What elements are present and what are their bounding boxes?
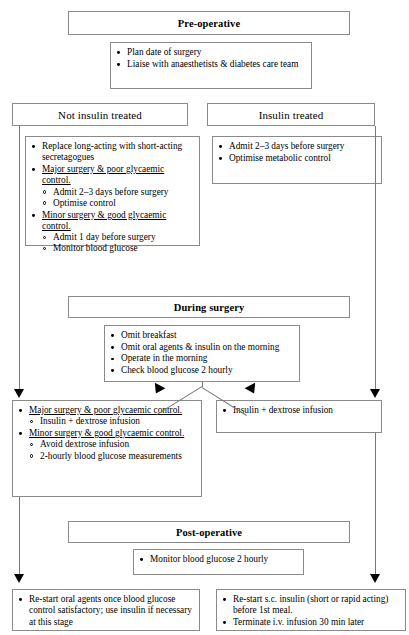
sub-list-item-text: Avoid dextrose infusion [40, 439, 129, 449]
bullet-dot-icon [223, 621, 226, 624]
list-item: Minor surgery & good glycaemic control. … [17, 428, 197, 462]
list-item-text: Admit 2–3 days before surgery [229, 141, 345, 151]
list-item-text: Check blood glucose 2 hourly [121, 365, 233, 375]
bullet-dot-icon [223, 598, 226, 601]
sub-list-item: Admit 2–3 days before surgery [42, 187, 195, 198]
list-item-text: Plan date of surgery [127, 47, 201, 57]
list-item: Optimise metabolic control [217, 153, 377, 164]
bullet-dot-icon [32, 168, 35, 171]
bullet-dot-icon [32, 214, 35, 217]
connector-right-branch-vertical [375, 126, 376, 392]
list-item-text: Replace long-acting with short-acting se… [42, 141, 182, 162]
stage-banner-during-surgery-label: During surgery [174, 302, 245, 313]
list-item: Omit oral agents & insulin on the mornin… [109, 342, 295, 353]
connector-left-branch-arrowhead [14, 389, 24, 398]
bullet-circle-icon [43, 190, 46, 193]
list-item-text: Terminate i.v. infusion 30 min later [233, 617, 364, 627]
branch-header-insulin-treated: Insulin treated [207, 103, 375, 126]
sub-list-item-text: 2-hourly blood glucose measurements [40, 451, 182, 461]
list-item: Minor surgery & good glycaemic control. … [30, 210, 195, 255]
list-item: Omit breakfast [109, 330, 295, 341]
sub-list-item: Optimise control [42, 198, 195, 209]
connector-postop-right-arrowhead [370, 574, 380, 583]
list-item-text: Major surgery & poor glycaemic control. [42, 164, 164, 185]
during-surgery-actions-box: Omit breakfast Omit oral agents & insuli… [104, 325, 300, 382]
sub-list: Admit 1 day before surgery Monitor blood… [42, 232, 195, 255]
connector-postop-left-vertical [19, 497, 20, 577]
list-item-text: Re-start oral agents once blood glucose … [29, 594, 192, 627]
sub-list: Admit 2–3 days before surgery Optimise c… [42, 187, 195, 210]
sub-list-item-text: Optimise control [53, 198, 116, 208]
postoperative-right-list: Re-start s.c. insulin (short or rapid ac… [221, 594, 401, 628]
list-item-text: Liaise with anaesthetists & diabetes car… [127, 59, 298, 69]
list-item-text: Monitor blood glucose 2 hourly [150, 554, 268, 564]
bullet-circle-icon [43, 247, 46, 250]
sub-list-item-text: Admit 2–3 days before surgery [53, 187, 169, 197]
postoperative-left-box: Re-start oral agents once blood glucose … [12, 589, 200, 631]
list-item-text: Insulin + dextrose infusion [233, 405, 333, 415]
list-item: Terminate i.v. infusion 30 min later [221, 617, 401, 628]
bullet-dot-icon [19, 409, 22, 412]
bullet-dot-icon [219, 157, 222, 160]
bullet-dot-icon [111, 369, 114, 372]
list-item-text: Operate in the morning [121, 353, 208, 363]
insulin-treated-content-box: Admit 2–3 days before surgery Optimise m… [212, 136, 382, 184]
sub-list: Avoid dextrose infusion 2-hourly blood g… [29, 439, 197, 462]
bullet-dot-icon [117, 51, 120, 54]
connector-during-surgery-arrowhead-left [151, 383, 166, 397]
list-item: Major surgery & poor glycaemic control. … [30, 164, 195, 209]
stage-banner-postoperative-label: Post-operative [176, 527, 242, 538]
branch-header-not-insulin-treated-label: Not insulin treated [58, 109, 142, 121]
postoperative-right-box: Re-start s.c. insulin (short or rapid ac… [216, 589, 406, 631]
during-surgery-list: Omit breakfast Omit oral agents & insuli… [109, 330, 295, 376]
connector-during-surgery-arrowhead-right [245, 383, 260, 397]
list-item: Monitor blood glucose 2 hourly [138, 554, 299, 565]
flowchart-canvas: Pre-operative Plan date of surgery Liais… [0, 0, 409, 635]
list-item-text: Omit breakfast [121, 330, 177, 340]
bullet-dot-icon [19, 598, 22, 601]
stage-banner-preoperative-label: Pre-operative [178, 18, 240, 29]
list-item: Re-start oral agents once blood glucose … [17, 594, 195, 628]
bullet-dot-icon [19, 432, 22, 435]
list-item-text: Re-start s.c. insulin (short or rapid ac… [233, 594, 388, 615]
postoperative-left-list: Re-start oral agents once blood glucose … [17, 594, 195, 628]
bullet-dot-icon [111, 334, 114, 337]
sub-list-item: 2-hourly blood glucose measurements [29, 451, 197, 462]
sub-list-item: Monitor blood glucose [42, 243, 195, 254]
sub-list-item-text: Insulin + dextrose infusion [40, 416, 140, 426]
insulin-treated-list: Admit 2–3 days before surgery Optimise m… [217, 141, 377, 164]
not-insulin-treated-content-box: Replace long-acting with short-acting se… [25, 136, 200, 246]
intraoperative-left-list: Major surgery & poor glycaemic control. … [17, 405, 197, 462]
bullet-circle-icon [43, 236, 46, 239]
list-item: Replace long-acting with short-acting se… [30, 141, 195, 164]
bullet-dot-icon [111, 358, 114, 361]
list-item-text: Optimise metabolic control [229, 153, 331, 163]
bullet-circle-icon [30, 454, 33, 457]
list-item: Re-start s.c. insulin (short or rapid ac… [221, 594, 401, 617]
stage-banner-postoperative: Post-operative [68, 521, 350, 543]
list-item: Admit 2–3 days before surgery [217, 141, 377, 152]
stage-banner-during-surgery: During surgery [68, 296, 350, 318]
sub-list-item: Admit 1 day before surgery [42, 232, 195, 243]
postoperative-monitor-list: Monitor blood glucose 2 hourly [138, 554, 299, 565]
sub-list: Insulin + dextrose infusion [29, 416, 197, 427]
intraoperative-left-box: Major surgery & poor glycaemic control. … [12, 400, 202, 497]
connector-right-branch-arrowhead [370, 389, 380, 398]
intraoperative-right-box: Insulin + dextrose infusion [216, 400, 382, 433]
bullet-dot-icon [223, 409, 226, 412]
bullet-dot-icon [140, 558, 143, 561]
not-insulin-treated-list: Replace long-acting with short-acting se… [30, 141, 195, 255]
stage-banner-preoperative: Pre-operative [68, 11, 350, 35]
connector-left-branch-vertical [19, 126, 20, 392]
postoperative-monitor-box: Monitor blood glucose 2 hourly [133, 549, 304, 575]
branch-header-not-insulin-treated: Not insulin treated [12, 103, 188, 126]
connector-postop-left-arrowhead [14, 574, 24, 583]
bullet-circle-icon [30, 443, 33, 446]
preoperative-actions-list: Plan date of surgery Liaise with anaesth… [115, 47, 307, 70]
list-item: Major surgery & poor glycaemic control. … [17, 405, 197, 428]
bullet-dot-icon [32, 145, 35, 148]
list-item: Operate in the morning [109, 353, 295, 364]
list-item: Liaise with anaesthetists & diabetes car… [115, 59, 307, 70]
bullet-dot-icon [111, 346, 114, 349]
bullet-circle-icon [30, 420, 33, 423]
